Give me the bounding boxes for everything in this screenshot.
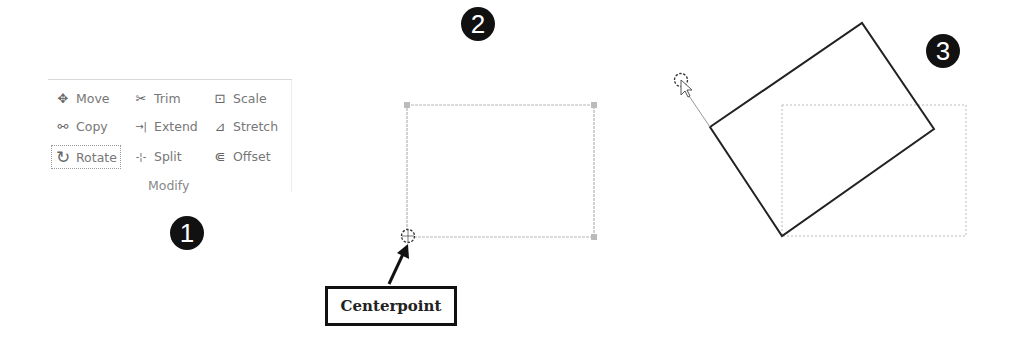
drawing-canvas <box>0 0 1025 358</box>
callout-arrow-icon <box>389 244 409 284</box>
rotated-rectangle <box>710 23 934 236</box>
rotate-cursor-icon <box>675 74 693 98</box>
selected-rectangle[interactable] <box>404 102 597 240</box>
centerpoint-marker <box>402 230 415 243</box>
centerpoint-callout: Centerpoint <box>325 286 457 326</box>
